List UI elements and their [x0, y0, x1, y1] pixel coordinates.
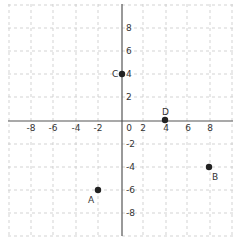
y-tick-label: 6: [126, 46, 132, 56]
point-d: D: [162, 107, 169, 123]
x-tick-label: -2: [94, 123, 103, 133]
y-tick-label: -8: [126, 208, 135, 218]
y-tick-label: -4: [126, 162, 135, 172]
x-tick-labels: -8 -6 -4 -2 0 2 4 6 8: [27, 123, 214, 133]
point-label: D: [162, 107, 169, 117]
vertical-gridlines: [9, 4, 232, 236]
y-tick-label: -2: [126, 139, 135, 149]
point-marker: [119, 71, 125, 77]
y-tick-label: 8: [126, 23, 132, 33]
x-tick-label: 6: [185, 123, 191, 133]
x-tick-label: 8: [207, 123, 213, 133]
x-tick-label: -8: [27, 123, 36, 133]
y-tick-label: 2: [126, 92, 132, 102]
coordinate-plane: -8 -6 -4 -2 0 2 4 6 8 8 6 4 2 -2 -4 -6 -…: [0, 0, 233, 238]
y-tick-label: 4: [126, 69, 132, 79]
point-marker: [206, 164, 212, 170]
point-label: A: [88, 195, 95, 205]
x-tick-label: 4: [163, 123, 169, 133]
x-tick-label: -6: [49, 123, 58, 133]
point-marker: [95, 187, 101, 193]
point-label: B: [212, 172, 218, 182]
x-tick-label: 0: [126, 123, 132, 133]
point-label: C: [112, 69, 118, 79]
point-b: B: [206, 164, 218, 182]
point-marker: [162, 117, 168, 123]
x-tick-label: -4: [72, 123, 81, 133]
y-tick-label: -6: [126, 185, 135, 195]
point-a: A: [88, 187, 101, 205]
x-tick-label: 2: [140, 123, 146, 133]
